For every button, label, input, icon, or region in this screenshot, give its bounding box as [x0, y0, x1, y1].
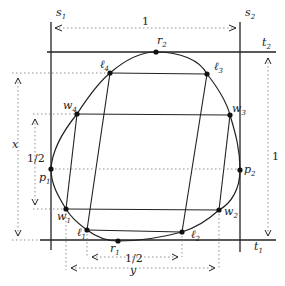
point-r2 — [153, 49, 158, 54]
segment-l4-l3 — [110, 73, 207, 74]
segment-l1-l2 — [87, 230, 182, 232]
label-p1: p1 — [39, 171, 51, 186]
segment-l3-l2 — [182, 74, 207, 232]
label-s2: s2 — [245, 6, 256, 21]
label-w2: w2 — [224, 205, 238, 220]
point-l3 — [204, 71, 209, 76]
point-l1 — [84, 227, 89, 232]
dim-top-1: 1 — [142, 15, 149, 28]
dim-right-1: 1 — [272, 150, 279, 163]
label-l2: ℓ2 — [191, 228, 201, 243]
point-l2 — [179, 229, 184, 234]
point-p2 — [237, 167, 242, 172]
convex-curve — [51, 52, 240, 241]
label-s1: s1 — [56, 6, 66, 21]
segment-w4-w1 — [66, 114, 77, 209]
convex-curve-diagram: s1 s2 t2 t1 r2 ℓ4 ℓ3 w4 w3 p1 p2 w1 w2 ℓ… — [0, 0, 285, 286]
label-r2: r2 — [157, 34, 167, 49]
label-l4: ℓ4 — [100, 58, 109, 73]
segment-l4-l1 — [87, 73, 110, 230]
segment-w1-w2 — [66, 209, 219, 210]
dim-left-half: 1/2 — [27, 152, 45, 165]
label-w3: w3 — [232, 102, 246, 117]
label-t2: t2 — [262, 36, 271, 51]
point-p1 — [48, 166, 53, 171]
dim-y-label: y — [129, 264, 137, 277]
label-p2: p2 — [244, 163, 256, 178]
label-l3: ℓ3 — [214, 60, 224, 75]
label-t1: t1 — [254, 240, 263, 255]
dim-x-label: x — [12, 138, 19, 151]
point-r1 — [115, 238, 120, 243]
point-w2 — [216, 207, 221, 212]
segment-w3-w2 — [219, 115, 230, 210]
segment-w4-w3 — [77, 114, 230, 115]
label-r1: r1 — [110, 242, 120, 257]
label-w4: w4 — [63, 99, 77, 114]
